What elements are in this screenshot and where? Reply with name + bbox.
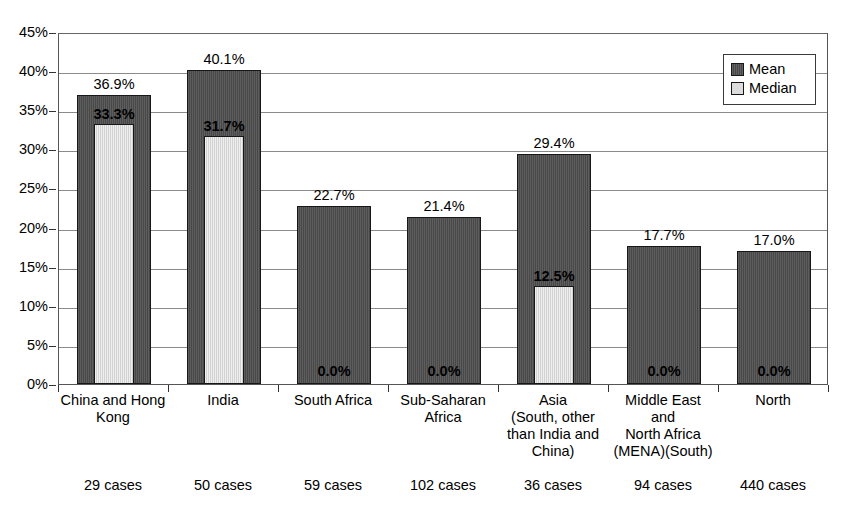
bar-value-label-mean: 17.7% — [609, 228, 719, 243]
y-axis-tick-mark — [49, 33, 56, 34]
y-axis-tick-label: 35% — [19, 103, 48, 118]
bar-mean — [407, 217, 481, 384]
mean-swatch-icon — [731, 63, 744, 76]
plot-area: 36.9%33.3%40.1%31.7%22.7%0.0%21.4%0.0%29… — [58, 33, 828, 385]
bar-value-label-mean: 17.0% — [719, 233, 829, 248]
category-label-line: Kong — [44, 409, 182, 426]
category-label-line: (MENA)(South) — [594, 443, 732, 460]
y-axis-tick-mark — [49, 229, 56, 230]
x-axis-tick-mark — [168, 385, 169, 392]
y-axis-tick-label: 40% — [19, 64, 48, 79]
bar-value-label-median: 0.0% — [389, 364, 499, 379]
bar-value-label-mean: 36.9% — [59, 77, 169, 92]
y-axis-tick-mark — [49, 150, 56, 151]
y-axis-tick-label: 15% — [19, 260, 48, 275]
y-axis-tick-label: 5% — [27, 338, 48, 353]
gridline — [59, 112, 827, 113]
x-axis-tick-mark — [58, 385, 59, 392]
chart-legend: Mean Median — [723, 54, 816, 105]
cases-count-label: 59 cases — [278, 478, 388, 493]
bar-median — [534, 286, 574, 384]
gridline — [59, 190, 827, 191]
y-axis-tick-mark — [49, 346, 56, 347]
cases-count-label: 102 cases — [388, 478, 498, 493]
gridline — [59, 73, 827, 74]
y-axis-tick-label: 20% — [19, 221, 48, 236]
category-label-line: North Africa — [594, 426, 732, 443]
y-axis-tick-label: 45% — [19, 25, 48, 40]
bar-value-label-median: 0.0% — [279, 364, 389, 379]
legend-item-median: Median — [731, 79, 808, 98]
legend-item-mean: Mean — [731, 60, 808, 79]
bar-value-label-median: 0.0% — [609, 364, 719, 379]
bar-median — [204, 136, 244, 384]
bar-mean — [297, 206, 371, 384]
legend-label-median: Median — [749, 81, 797, 96]
bar-value-label-mean: 22.7% — [279, 188, 389, 203]
y-axis-tick-mark — [49, 72, 56, 73]
median-swatch-icon — [731, 82, 744, 95]
y-axis-tick-mark — [49, 111, 56, 112]
bar-value-label-mean: 40.1% — [169, 52, 279, 67]
cases-count-label: 440 cases — [718, 478, 828, 493]
x-axis-tick-mark — [718, 385, 719, 392]
bar-value-label-median: 33.3% — [59, 107, 169, 122]
category-label-line: and — [594, 409, 732, 426]
cases-count-label: 50 cases — [168, 478, 278, 493]
bar-value-label-mean: 29.4% — [499, 136, 609, 151]
bar-chart: 0%5%10%15%20%25%30%35%40%45% 36.9%33.3%4… — [0, 0, 852, 512]
legend-label-mean: Mean — [749, 62, 785, 77]
x-axis-category-label: North — [704, 392, 842, 409]
cases-count-label: 29 cases — [58, 478, 168, 493]
gridline — [59, 151, 827, 152]
bar-value-label-median: 0.0% — [719, 364, 829, 379]
y-axis-tick-mark — [49, 189, 56, 190]
y-axis-tick-mark — [49, 385, 56, 386]
cases-count-label: 94 cases — [608, 478, 718, 493]
y-axis-tick-mark — [49, 307, 56, 308]
x-axis-tick-mark — [278, 385, 279, 392]
x-axis-tick-mark — [498, 385, 499, 392]
y-axis-tick-label: 30% — [19, 142, 48, 157]
y-axis-tick-mark — [49, 268, 56, 269]
bar-value-label-mean: 21.4% — [389, 199, 499, 214]
x-axis-tick-mark — [828, 385, 829, 392]
x-axis-tick-mark — [608, 385, 609, 392]
cases-count-label: 36 cases — [498, 478, 608, 493]
x-axis-tick-mark — [388, 385, 389, 392]
y-axis-tick-label: 25% — [19, 181, 48, 196]
y-axis-tick-label: 0% — [27, 377, 48, 392]
bar-value-label-median: 31.7% — [169, 119, 279, 134]
category-label-line: North — [704, 392, 842, 409]
bar-value-label-median: 12.5% — [499, 269, 609, 284]
y-axis-tick-label: 10% — [19, 299, 48, 314]
bar-median — [94, 124, 134, 384]
